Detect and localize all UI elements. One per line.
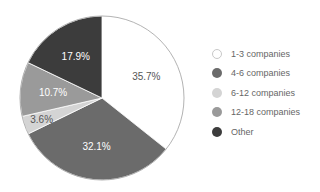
slice-label: 17.9% [62, 51, 90, 62]
legend-item-1-3-companies[interactable]: 1-3 companies [212, 44, 300, 64]
legend-item-12-18-companies[interactable]: 12-18 companies [212, 103, 300, 123]
slice-label: 35.7% [132, 71, 160, 82]
chart-legend: 1-3 companies 4-6 companies 6-12 compani… [212, 44, 300, 142]
legend-swatch-icon [212, 68, 222, 78]
legend-item-4-6-companies[interactable]: 4-6 companies [212, 64, 300, 84]
legend-swatch-icon [212, 88, 222, 98]
legend-item-6-12-companies[interactable]: 6-12 companies [212, 83, 300, 103]
legend-label: Other [231, 127, 254, 137]
slice-label: 32.1% [82, 141, 110, 152]
legend-label: 6-12 companies [231, 88, 295, 98]
slice-label: 10.7% [39, 87, 67, 98]
legend-label: 4-6 companies [231, 68, 290, 78]
legend-swatch-icon [212, 49, 222, 59]
legend-swatch-icon [212, 127, 222, 137]
legend-item-other[interactable]: Other [212, 122, 300, 142]
slice-label: 3.6% [30, 114, 53, 125]
legend-label: 1-3 companies [231, 49, 290, 59]
legend-swatch-icon [212, 107, 222, 117]
legend-label: 12-18 companies [231, 107, 300, 117]
